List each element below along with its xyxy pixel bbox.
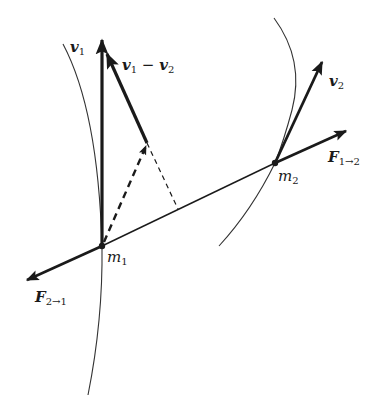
label-v2: v2 [329, 72, 344, 91]
label-v1-minus-v2: v1 − v2 [122, 56, 174, 75]
mass-dot-m1 [99, 243, 105, 249]
label-m1: m1 [107, 248, 128, 267]
mass-dot-m2 [272, 160, 278, 166]
physics-diagram: v1 v1 − v2 v2 F1→2 F2→1 m1 m2 [0, 0, 378, 410]
trajectory-m1 [63, 44, 102, 395]
velocity-arrow-v2 [275, 62, 322, 163]
label-F12: F1→2 [327, 148, 360, 167]
trajectory-m2 [219, 18, 296, 246]
force-arrow-F21 [27, 246, 102, 280]
dashed-perpendicular [147, 143, 178, 209]
line-of-centers [102, 163, 275, 246]
label-v1: v1 [70, 38, 85, 57]
label-m2: m2 [278, 167, 299, 186]
label-F21: F2→1 [34, 288, 67, 307]
